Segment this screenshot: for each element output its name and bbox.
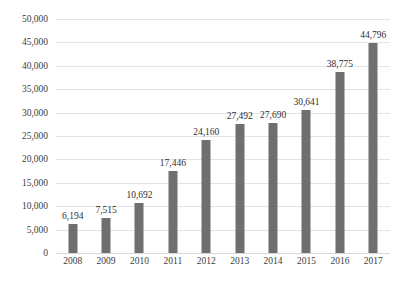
x-axis-tick-label: 2015 bbox=[297, 256, 316, 266]
bar[interactable] bbox=[68, 224, 77, 253]
bar-slot: 30,641 bbox=[290, 19, 323, 253]
bar-value-label: 44,796 bbox=[360, 30, 386, 40]
y-axis-tick-label: 25,000 bbox=[22, 131, 48, 141]
bar[interactable] bbox=[369, 43, 378, 253]
bars-layer: 6,1947,51510,69217,44624,16027,49227,690… bbox=[56, 19, 390, 253]
bar[interactable] bbox=[135, 203, 144, 253]
bar-chart: 05,00010,00015,00020,00025,00030,00035,0… bbox=[0, 0, 412, 290]
bar-slot: 6,194 bbox=[56, 19, 89, 253]
y-axis-tick-labels: 05,00010,00015,00020,00025,00030,00035,0… bbox=[0, 19, 52, 253]
x-axis-tick-label: 2014 bbox=[264, 256, 283, 266]
bar[interactable] bbox=[168, 171, 177, 253]
bar-slot: 38,775 bbox=[323, 19, 356, 253]
bar[interactable] bbox=[335, 72, 344, 253]
y-axis-tick-label: 30,000 bbox=[22, 108, 48, 118]
bar-slot: 17,446 bbox=[156, 19, 189, 253]
bar-slot: 24,160 bbox=[190, 19, 223, 253]
y-axis-tick-label: 5,000 bbox=[27, 225, 48, 235]
bar-slot: 10,692 bbox=[123, 19, 156, 253]
y-axis-tick-label: 45,000 bbox=[22, 37, 48, 47]
bar-value-label: 6,194 bbox=[62, 211, 83, 221]
x-axis-tick-label: 2010 bbox=[130, 256, 149, 266]
axis-baseline bbox=[56, 253, 390, 254]
bar-slot: 27,492 bbox=[223, 19, 256, 253]
bar[interactable] bbox=[235, 124, 244, 253]
bar[interactable] bbox=[102, 218, 111, 253]
bar-slot: 7,515 bbox=[89, 19, 122, 253]
bar-value-label: 24,160 bbox=[193, 127, 219, 137]
bar-value-label: 30,641 bbox=[293, 97, 319, 107]
y-axis-tick-label: 35,000 bbox=[22, 84, 48, 94]
bar[interactable] bbox=[302, 110, 311, 253]
y-axis-tick-label: 15,000 bbox=[22, 178, 48, 188]
bar[interactable] bbox=[202, 140, 211, 253]
bar[interactable] bbox=[269, 123, 278, 253]
bar-value-label: 27,492 bbox=[227, 111, 253, 121]
x-axis-tick-label: 2009 bbox=[97, 256, 116, 266]
bar-slot: 27,690 bbox=[256, 19, 289, 253]
bar-value-label: 27,690 bbox=[260, 110, 286, 120]
y-axis-tick-label: 40,000 bbox=[22, 61, 48, 71]
bar-value-label: 10,692 bbox=[126, 190, 152, 200]
y-axis-tick-label: 0 bbox=[43, 248, 48, 258]
bar-value-label: 17,446 bbox=[160, 158, 186, 168]
x-axis-tick-labels: 2008200920102011201220132014201520162017 bbox=[56, 256, 390, 274]
x-axis-tick-label: 2016 bbox=[330, 256, 349, 266]
x-axis-tick-label: 2013 bbox=[230, 256, 249, 266]
x-axis-tick-label: 2008 bbox=[63, 256, 82, 266]
y-axis-tick-label: 20,000 bbox=[22, 154, 48, 164]
x-axis-tick-label: 2017 bbox=[364, 256, 383, 266]
y-axis-tick-label: 50,000 bbox=[22, 14, 48, 24]
x-axis-tick-label: 2011 bbox=[164, 256, 183, 266]
bar-slot: 44,796 bbox=[357, 19, 390, 253]
x-axis-tick-label: 2012 bbox=[197, 256, 216, 266]
bar-value-label: 38,775 bbox=[327, 59, 353, 69]
bar-value-label: 7,515 bbox=[95, 205, 116, 215]
y-axis-tick-label: 10,000 bbox=[22, 201, 48, 211]
